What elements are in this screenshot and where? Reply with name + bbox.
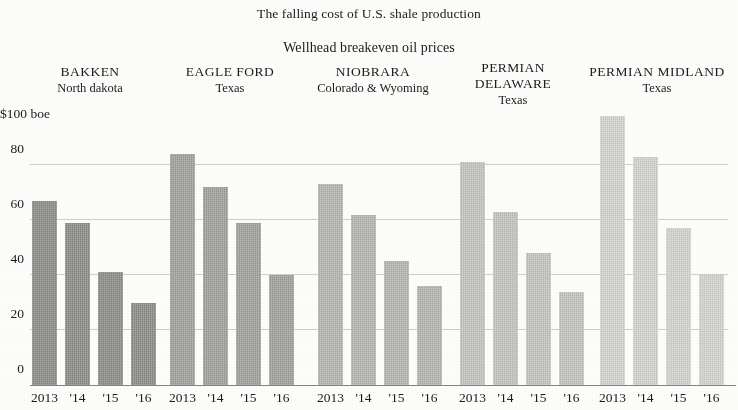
group-name-permian-midland: PERMIAN MIDLAND	[576, 64, 738, 80]
group-header-eagle-ford: EAGLE FORD Texas	[160, 64, 300, 96]
x-axis-tick-label: 2013	[317, 390, 344, 406]
x-axis-tick-label: '15	[241, 390, 257, 406]
bar	[170, 154, 195, 385]
group-region-permian-delaware: Texas	[448, 93, 578, 108]
group-region-niobrara: Colorado & Wyoming	[293, 81, 453, 96]
y-axis-unit-label: $100 boe	[0, 106, 50, 122]
bar	[417, 286, 442, 385]
group-region-bakken: North dakota	[20, 81, 160, 96]
x-axis-tick-label: 2013	[169, 390, 196, 406]
x-axis-tick-label: '14	[70, 390, 86, 406]
bar	[351, 215, 376, 386]
x-axis-baseline	[30, 385, 736, 386]
y-axis-tick-label: 40	[11, 251, 25, 267]
chart-subtitle: Wellhead breakeven oil prices	[0, 40, 738, 56]
x-axis-tick-label: '15	[671, 390, 687, 406]
x-axis-tick-label: '16	[422, 390, 438, 406]
x-axis-tick-label: '16	[274, 390, 290, 406]
x-axis-tick-label: '15	[531, 390, 547, 406]
bar	[65, 223, 90, 385]
x-axis-tick-label: 2013	[459, 390, 486, 406]
group-name-delaware: DELAWARE	[448, 76, 578, 92]
x-axis-tick-label: '14	[356, 390, 372, 406]
x-axis-tick-label: '16	[136, 390, 152, 406]
x-axis-tick-label: '16	[704, 390, 720, 406]
bar	[600, 116, 625, 386]
bar	[493, 212, 518, 385]
bar	[666, 228, 691, 385]
group-region-permian-midland: Texas	[576, 81, 738, 96]
group-region-eagle-ford: Texas	[160, 81, 300, 96]
x-axis-tick-label: '14	[638, 390, 654, 406]
group-header-permian-midland: PERMIAN MIDLAND Texas	[576, 64, 738, 96]
x-axis-tick-label: '15	[389, 390, 405, 406]
bar	[460, 162, 485, 385]
bar	[203, 187, 228, 385]
group-name-niobrara: NIOBRARA	[293, 64, 453, 80]
x-axis-tick-label: '14	[208, 390, 224, 406]
bar	[236, 223, 261, 385]
bar	[131, 303, 156, 386]
x-axis-tick-label: '14	[498, 390, 514, 406]
bar	[699, 275, 724, 385]
chart-title: The falling cost of U.S. shale productio…	[0, 6, 738, 22]
x-axis-tick-label: 2013	[599, 390, 626, 406]
bar	[384, 261, 409, 385]
y-axis-tick-label: 80	[11, 141, 25, 157]
y-axis-tick-label: 20	[11, 306, 25, 322]
group-header-bakken: BAKKEN North dakota	[20, 64, 160, 96]
y-axis-tick-label: 0	[17, 361, 24, 377]
bar	[526, 253, 551, 385]
bar	[269, 275, 294, 385]
bar	[633, 157, 658, 385]
group-name-permian: PERMIAN	[448, 60, 578, 76]
bar	[32, 201, 57, 385]
bar	[98, 272, 123, 385]
x-axis-tick-label: 2013	[31, 390, 58, 406]
group-name-bakken: BAKKEN	[20, 64, 160, 80]
y-axis-tick-label: 60	[11, 196, 25, 212]
group-header-permian-delaware: PERMIAN DELAWARE Texas	[448, 60, 578, 108]
plot-area: $100 boe 806040200 2013'14'15'162013'14'…	[30, 110, 730, 385]
chart-figure: The falling cost of U.S. shale productio…	[0, 0, 738, 410]
x-axis-tick-label: '15	[103, 390, 119, 406]
x-axis-tick-label: '16	[564, 390, 580, 406]
bar	[559, 292, 584, 386]
bar	[318, 184, 343, 385]
group-header-niobrara: NIOBRARA Colorado & Wyoming	[293, 64, 453, 96]
group-name-eagle-ford: EAGLE FORD	[160, 64, 300, 80]
